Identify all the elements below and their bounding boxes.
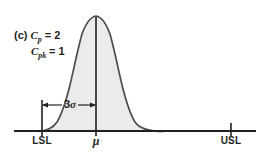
cp-subscript: p (38, 35, 42, 44)
cpk-value: 1 (59, 45, 65, 57)
cp-symbol: C (31, 29, 38, 41)
usl-label: USL (221, 136, 242, 146)
three-sigma-label: 3σ (64, 99, 76, 110)
process-capability-figure: (c) Cp = 2 Cpk = 1 3σ LSL μ USL (0, 0, 268, 156)
cp-relation: = (45, 29, 51, 41)
cpk-subscript: pk (38, 51, 46, 60)
mu-label: μ (93, 135, 100, 147)
cp-annotation-row: (c) Cp = 2 (14, 29, 65, 45)
lsl-label: LSL (32, 136, 52, 146)
panel-label: (c) (14, 29, 27, 41)
distribution-plot (0, 0, 268, 156)
cp-value: 2 (54, 29, 60, 41)
capability-annotation: (c) Cp = 2 Cpk = 1 (14, 29, 65, 61)
cpk-relation: = (49, 45, 55, 57)
cpk-annotation-row: Cpk = 1 (14, 45, 65, 61)
sigma-symbol: σ (70, 98, 76, 110)
